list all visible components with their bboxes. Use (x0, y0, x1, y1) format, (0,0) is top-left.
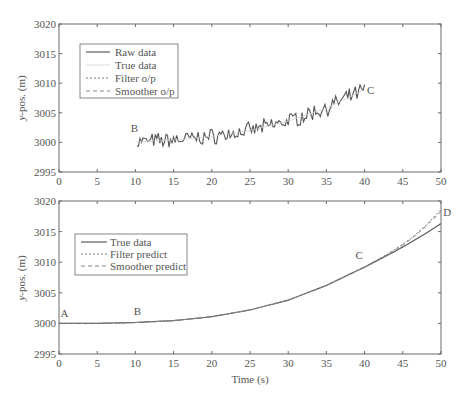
legend-label: True data (110, 236, 152, 248)
point-label-c: C (355, 249, 362, 261)
y-tick-label: 3020 (34, 18, 57, 30)
x-tick-label: 0 (56, 357, 62, 369)
x-tick-label: 20 (206, 357, 218, 369)
y-tick-label: 3010 (34, 256, 57, 268)
legend-label: Smoother predict (110, 260, 186, 272)
x-tick-label: 10 (130, 175, 142, 187)
legend: True dataFilter predictSmoother predict (75, 234, 187, 275)
x-tick-label: 10 (130, 357, 142, 369)
x-tick-label: 5 (94, 357, 100, 369)
y-tick-label: 2995 (34, 348, 57, 360)
legend-label: Filter predict (110, 248, 167, 260)
legend-label: True data (115, 59, 157, 71)
axes-frame (59, 201, 441, 354)
y-tick-label: 3020 (34, 195, 57, 207)
x-tick-label: 0 (56, 175, 62, 187)
x-tick-label: 15 (168, 357, 180, 369)
legend-label: Smoother o/p (115, 85, 175, 97)
x-tick-label: 45 (397, 175, 409, 187)
point-label-c: C (367, 84, 374, 96)
legend: Raw dataTrue dataFilter o/pSmoother o/p (80, 44, 178, 98)
point-label-a: A (61, 307, 69, 319)
x-tick-label: 35 (321, 175, 333, 187)
x-tick-label: 30 (283, 357, 295, 369)
y-tick-label: 3005 (34, 287, 57, 299)
x-tick-label: 45 (397, 357, 409, 369)
x-tick-label: 25 (245, 357, 257, 369)
bottom-plot-panel: 0510152025303540455029953000300530103015… (15, 195, 451, 386)
figure: 0510152025303540455029953000300530103015… (0, 0, 464, 399)
y-axis-label: y-pos. (m) (15, 75, 28, 122)
y-tick-label: 3015 (34, 48, 57, 60)
point-label-b: B (131, 122, 138, 134)
legend-label: Filter o/p (115, 72, 156, 84)
y-tick-label: 2995 (34, 166, 57, 178)
x-tick-label: 50 (436, 357, 448, 369)
point-label-b: B (134, 305, 141, 317)
x-axis-label: Time (s) (231, 373, 269, 386)
y-tick-label: 3005 (34, 107, 57, 119)
point-label-d: D (443, 206, 451, 218)
x-tick-label: 15 (168, 175, 180, 187)
y-tick-label: 3015 (34, 226, 57, 238)
x-tick-label: 50 (436, 175, 448, 187)
y-tick-label: 3000 (34, 317, 57, 329)
x-tick-label: 30 (283, 175, 295, 187)
y-tick-label: 3010 (34, 77, 57, 89)
x-tick-label: 25 (245, 175, 257, 187)
x-tick-label: 35 (321, 357, 333, 369)
x-tick-label: 5 (94, 175, 100, 187)
x-tick-label: 40 (359, 175, 371, 187)
legend-label: Raw data (115, 46, 156, 58)
y-tick-label: 3000 (34, 136, 57, 148)
x-tick-label: 20 (206, 175, 218, 187)
y-axis-label: y-pos. (m) (15, 255, 28, 302)
top-plot-panel: 0510152025303540455029953000300530103015… (15, 18, 447, 187)
x-tick-label: 40 (359, 357, 371, 369)
